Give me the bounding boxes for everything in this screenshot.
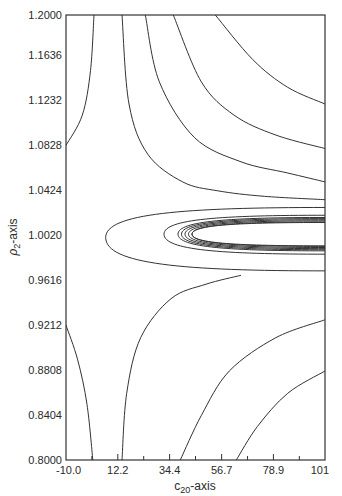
x-axis-label-suffix: -axis [190,479,215,493]
y-axis-label: ρ2-axis [6,218,22,256]
y-tick-label: 0.8404 [28,409,62,421]
x-axis-label-sub: 20 [180,485,190,495]
contour-line-lower-left [66,325,93,460]
hatched-region [192,222,327,245]
y-axis-label-suffix: -axis [6,218,20,243]
contour-line-upper-4 [215,15,325,104]
plot-frame [66,15,325,460]
y-axis-ticks: 1.20001.16361.12321.08281.04241.00200.96… [28,9,62,466]
contour-plot: 1.20001.16361.12321.08281.04241.00200.96… [0,0,342,496]
contour-line-lower-3 [236,371,325,460]
x-tick-label: 12.2 [107,464,128,476]
contour-line-lower-2 [180,320,325,460]
x-tick-label: 101 [311,464,329,476]
y-tick-label: 0.8808 [28,364,62,376]
central-loops [106,207,327,270]
x-tick-label: -10.0 [56,464,81,476]
contour-loop-outer [106,207,327,270]
y-tick-label: 0.9616 [28,274,62,286]
contour-lines [66,15,325,460]
y-tick-label: 1.1636 [28,49,62,61]
y-tick-label: 1.0424 [28,184,62,196]
x-tick-label: 34.4 [159,464,180,476]
x-axis-label: c20-axis [174,479,215,495]
y-tick-label: 1.1232 [28,94,62,106]
contour-loop-nested [189,221,328,248]
contour-loop-nested [185,220,327,249]
y-tick-label: 1.2000 [28,9,62,21]
contour-line-upper-left [66,15,94,145]
y-tick-label: 0.9212 [28,319,62,331]
contour-line-lower-1 [122,275,241,460]
x-axis-ticks: -10.012.234.456.778.9101 [56,454,329,476]
contour-loop-nested [192,222,327,246]
y-tick-label: 1.0020 [28,229,62,241]
contour-line-upper-3 [173,15,325,149]
y-tick-label: 1.0828 [28,139,62,151]
y-axis-label-main: ρ [6,249,20,257]
x-tick-label: 78.9 [263,464,284,476]
x-tick-label: 56.7 [211,464,232,476]
